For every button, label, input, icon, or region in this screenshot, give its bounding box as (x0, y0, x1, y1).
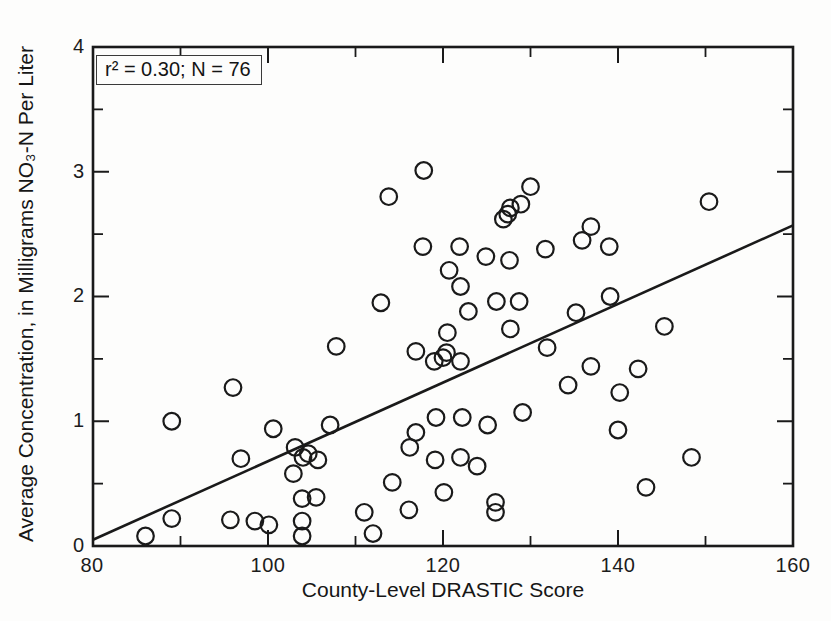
data-point (479, 417, 496, 434)
data-point (163, 413, 180, 430)
data-point (514, 404, 531, 421)
data-point (583, 218, 600, 235)
data-point (436, 484, 453, 501)
data-point (373, 294, 390, 311)
data-point (452, 353, 469, 370)
x-axis-title: County-Level DRASTIC Score (302, 578, 584, 602)
data-point (285, 465, 302, 482)
data-point (222, 512, 239, 529)
data-point (656, 318, 673, 335)
x-tick-label-140: 140 (601, 554, 636, 577)
data-point (401, 502, 418, 519)
y-tick-label-3: 3 (38, 160, 84, 183)
data-point (322, 417, 339, 434)
data-point (225, 379, 242, 396)
data-point (427, 452, 444, 469)
data-point (560, 377, 577, 394)
data-point (602, 288, 619, 305)
data-point (469, 458, 486, 475)
x-tick-label-100: 100 (251, 554, 286, 577)
data-point (163, 510, 180, 527)
data-point (539, 339, 556, 356)
data-point (611, 384, 628, 401)
y-tick-label-0: 0 (38, 534, 84, 557)
data-point (428, 409, 445, 426)
plot-canvas (0, 0, 831, 621)
data-point (630, 361, 647, 378)
y-tick-label-1: 1 (38, 409, 84, 432)
data-point (478, 248, 495, 265)
data-point (460, 303, 477, 320)
data-point (451, 238, 468, 255)
data-point (265, 420, 282, 437)
data-point (233, 450, 250, 467)
data-point (522, 178, 539, 195)
data-point (415, 238, 432, 255)
data-point (601, 238, 618, 255)
y-tick-label-4: 4 (38, 35, 84, 58)
data-point (610, 422, 627, 439)
data-point (452, 449, 469, 466)
data-point (537, 241, 554, 258)
data-point (701, 193, 718, 210)
data-point (583, 358, 600, 375)
data-point (415, 162, 432, 179)
data-point (384, 474, 401, 491)
x-tick-label-80: 80 (80, 554, 103, 577)
data-point (441, 262, 458, 279)
data-point (513, 196, 530, 213)
y-tick-label-2: 2 (38, 284, 84, 307)
data-point (501, 252, 518, 269)
data-point (380, 188, 397, 205)
data-point (454, 409, 471, 426)
y-axis-title: Average Concentration, in Milligrams NO₃… (14, 46, 38, 542)
data-point (408, 424, 425, 441)
data-point (408, 343, 425, 360)
data-point (638, 479, 655, 496)
plot-frame (93, 47, 793, 546)
regression-line (93, 225, 793, 539)
data-point (439, 324, 456, 341)
x-tick-label-160: 160 (776, 554, 811, 577)
data-point (487, 494, 504, 511)
data-point (356, 504, 373, 521)
data-point (487, 504, 504, 521)
data-point (511, 293, 528, 310)
data-point (365, 525, 382, 542)
scatter-plot-figure: 0 1 2 3 4 80 100 120 140 160 County-Leve… (0, 0, 831, 621)
data-point (137, 528, 154, 545)
data-point (502, 321, 519, 338)
data-point (328, 338, 345, 355)
data-point (683, 449, 700, 466)
data-point (568, 304, 585, 321)
x-tick-label-120: 120 (426, 554, 461, 577)
data-point (488, 293, 505, 310)
r-squared-annotation: r² = 0.30; N = 76 (96, 55, 262, 85)
data-point (452, 278, 469, 295)
